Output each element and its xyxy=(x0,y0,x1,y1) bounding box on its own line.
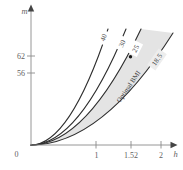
y-axis-arrowhead-icon xyxy=(28,5,34,12)
origin-label: 0 xyxy=(15,150,19,159)
curve-bmi-40 xyxy=(31,29,108,145)
x-tick-label-2: 2 xyxy=(159,151,163,160)
curve-label-40-group: 40 xyxy=(96,29,110,46)
y-tick-label-56: 56 xyxy=(17,69,25,78)
chart-canvas: 40 30 25 18.5 Optimal BMI 62 56 xyxy=(0,0,183,170)
x-tick-label-1-52: 1.52 xyxy=(124,151,138,160)
bmi-level-curves-figure: 40 30 25 18.5 Optimal BMI 62 56 xyxy=(0,0,183,170)
x-axis-label: h xyxy=(173,149,177,159)
y-axis-label: m xyxy=(21,6,27,16)
data-point-marker xyxy=(129,55,132,58)
y-tick-label-62: 62 xyxy=(17,52,25,61)
x-tick-label-1: 1 xyxy=(95,151,99,160)
x-axis-arrowhead-icon xyxy=(171,142,178,148)
